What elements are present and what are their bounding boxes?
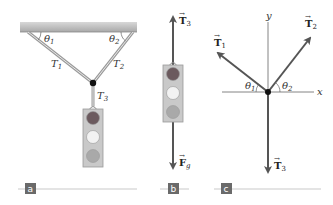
panel-b: T3 → Fg → b (160, 10, 191, 194)
y-axis-label: y (265, 10, 272, 21)
panel-a-tag: a (28, 184, 34, 194)
traffic-light-b (163, 63, 183, 123)
panel-c-tag: c (224, 184, 229, 194)
svg-text:→: → (305, 13, 311, 21)
c-t2-arrow (268, 38, 310, 92)
c-t1-arrow (218, 53, 268, 92)
panel-b-tag: b (171, 184, 177, 194)
svg-text:→: → (274, 155, 280, 163)
theta2-arc (121, 32, 126, 41)
green-light (87, 150, 100, 163)
c-theta2-arc (275, 83, 280, 93)
svg-text:T2: T2 (113, 58, 125, 71)
svg-text:→: → (179, 10, 185, 18)
knot (90, 80, 96, 86)
physics-diagram: θ1 θ2 T1 T2 T3 a T3 → Fg (0, 0, 333, 205)
panel-c: y x T1 → T2 → T3 → θ1 θ2 c (214, 10, 323, 194)
origin-point (265, 89, 271, 95)
svg-text:T3: T3 (97, 90, 109, 103)
x-axis-label: x (317, 86, 323, 97)
svg-text:θ2: θ2 (282, 80, 293, 93)
red-light (87, 112, 100, 125)
traffic-light (83, 107, 103, 168)
rope-t1-inner (28, 32, 93, 83)
svg-text:→: → (179, 152, 185, 160)
svg-text:T1: T1 (51, 58, 62, 71)
c-theta1-arc (256, 85, 259, 92)
svg-text:θ2: θ2 (109, 33, 120, 46)
panel-a: θ1 θ2 T1 T2 T3 a (18, 22, 137, 194)
svg-text:→: → (214, 32, 220, 40)
yellow-light (87, 131, 100, 144)
ceiling (20, 22, 137, 32)
